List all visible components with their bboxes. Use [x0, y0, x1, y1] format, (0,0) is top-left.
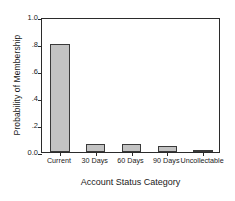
y-tick-mark [38, 73, 42, 74]
x-tick-label: 30 Days [82, 156, 108, 166]
y-axis-tick-labels: 1.0.8.6.4.20.0 [19, 0, 38, 201]
plot-area [41, 18, 220, 153]
bar [86, 144, 105, 152]
y-tick-label: .4 [19, 95, 38, 103]
x-tick-label: 60 Days [117, 156, 143, 166]
y-tick-mark [38, 46, 42, 47]
y-tick-mark [38, 100, 42, 101]
y-tick-mark [38, 19, 42, 20]
x-axis-title: Account Status Category [41, 176, 220, 188]
y-tick-label: .8 [19, 41, 38, 49]
x-axis-tick-labels: Current30 Days60 Days90 DaysUncollectabl… [41, 156, 220, 168]
y-tick-mark [38, 127, 42, 128]
bar [122, 144, 141, 152]
bar-series [42, 19, 219, 152]
y-tick-label: 0.0 [19, 149, 38, 157]
y-tick-label: .6 [19, 68, 38, 76]
x-tick-label: Current [47, 156, 71, 166]
y-tick-label: 1.0 [19, 14, 38, 22]
y-tick-label: .2 [19, 122, 38, 130]
bar [50, 44, 69, 152]
x-tick-label: Uncollectable [181, 156, 224, 166]
y-tick-mark [38, 154, 42, 155]
bar-chart-figure: Probability of Membership 1.0.8.6.4.20.0… [0, 0, 235, 201]
x-tick-label: 90 Days [153, 156, 179, 166]
